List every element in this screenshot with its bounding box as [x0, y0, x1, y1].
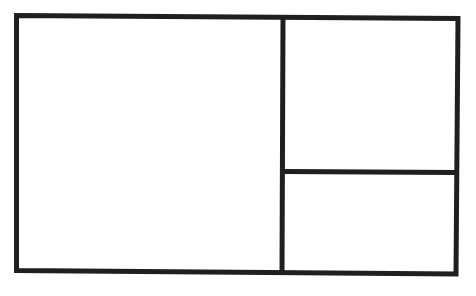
layout-diagram — [0, 0, 476, 296]
top-right-panel — [286, 21, 454, 169]
bottom-right-panel — [286, 175, 454, 271]
outer-frame — [17, 16, 459, 275]
vertical-divider — [282, 17, 283, 273]
horizontal-divider — [283, 172, 457, 173]
left-panel — [19, 18, 280, 268]
